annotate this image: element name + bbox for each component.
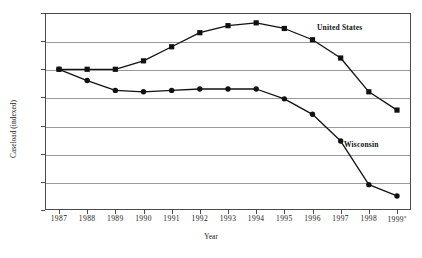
data-point-marker [310, 37, 315, 42]
series-line [59, 23, 397, 110]
data-point-marker [225, 86, 230, 91]
series-label-united-states: United States [317, 23, 362, 32]
data-point-marker [366, 89, 371, 94]
data-point-marker [113, 67, 118, 72]
series-united-states [56, 20, 399, 112]
series-layer [0, 0, 422, 258]
data-point-marker [141, 58, 146, 63]
data-point-marker [197, 86, 202, 91]
x-axis-title: Year [0, 232, 422, 241]
data-point-marker [141, 89, 146, 94]
data-point-marker [169, 44, 174, 49]
series-wisconsin [56, 67, 399, 199]
data-point-marker [113, 88, 118, 93]
series-label-wisconsin: Wisconsin [344, 140, 379, 149]
chart-figure: Caseload (indexed) 00.20.40.60.811.21.4 … [0, 0, 422, 258]
data-point-marker [56, 67, 61, 72]
data-point-marker [169, 88, 174, 93]
data-point-marker [338, 138, 343, 143]
data-point-marker [282, 96, 287, 101]
data-point-marker [394, 107, 399, 112]
data-point-marker [85, 67, 90, 72]
data-point-marker [282, 26, 287, 31]
data-point-marker [197, 30, 202, 35]
data-point-marker [310, 112, 315, 117]
data-point-marker [366, 182, 371, 187]
data-point-marker [338, 55, 343, 60]
data-point-marker [254, 20, 259, 25]
data-point-marker [253, 86, 258, 91]
data-point-marker [84, 78, 89, 83]
data-point-marker [394, 193, 399, 198]
data-point-marker [225, 23, 230, 28]
